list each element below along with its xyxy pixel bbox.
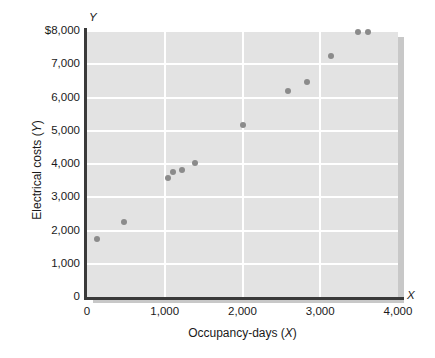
y-axis-title: Electrical costs (Y) (30, 70, 44, 270)
x-tick-label: 1,000 (150, 305, 179, 317)
data-point (365, 29, 371, 35)
data-point (285, 88, 291, 94)
x-tick-label: 4,000 (384, 305, 413, 317)
x-axis-title: Occupancy-days (X) (87, 326, 398, 340)
x-axis-line (84, 297, 404, 300)
y-axis-line (84, 28, 87, 300)
y-tick-label: $8,000 (4, 25, 80, 36)
data-point (170, 169, 176, 175)
x-tick-label: 2,000 (228, 305, 257, 317)
y-axis-letter: Y (89, 11, 97, 23)
y-axis-title-text: Electrical costs (Y) (30, 120, 44, 219)
data-point (121, 219, 127, 225)
data-point (304, 79, 310, 85)
x-axis-letter: X (407, 289, 415, 301)
plot-area (87, 31, 398, 297)
data-point (355, 29, 361, 35)
x-tick-label: 3,000 (306, 305, 335, 317)
y-tick-label: 7,000 (4, 58, 80, 69)
gridline-vertical (319, 31, 321, 297)
data-point (240, 122, 246, 128)
y-tick-label: 0 (4, 291, 80, 302)
x-axis-title-text: Occupancy-days (X) (188, 326, 297, 340)
data-point (165, 175, 171, 181)
data-point (192, 160, 198, 166)
data-point (328, 53, 334, 59)
gridline-vertical (242, 31, 244, 297)
data-point (179, 167, 185, 173)
scatter-chart: 01,0002,0003,0004,0005,0006,0007,000$8,0… (0, 0, 435, 358)
data-point (94, 236, 100, 242)
x-tick-label: 0 (84, 305, 90, 317)
gridline-vertical (164, 31, 166, 297)
